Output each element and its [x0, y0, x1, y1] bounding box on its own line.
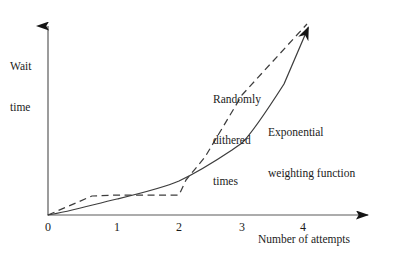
y-axis-title: Wait time — [10, 33, 31, 142]
annotation-exponential-weighting-function: Exponential weighting function — [268, 99, 355, 208]
annotation-randomly-dithered-times: Randomly dithered times — [213, 66, 261, 215]
y-axis-title-line-1: Wait — [10, 60, 31, 74]
x-tick-label-1: 1 — [107, 220, 127, 234]
annotation-dithered-line-2: dithered — [213, 134, 261, 148]
x-tick-label-0: 0 — [38, 220, 58, 234]
annotation-exponential-line-1: Exponential — [268, 126, 355, 140]
x-tick-label-4: 4 — [293, 220, 313, 234]
annotation-dithered-line-3: times — [213, 175, 261, 189]
x-axis-title: Number of attempts — [258, 233, 350, 247]
y-axis-title-line-2: time — [10, 101, 31, 115]
x-tick-label-2: 2 — [169, 220, 189, 234]
annotation-exponential-line-2: weighting function — [268, 167, 355, 181]
wait-time-vs-attempts-chart: Wait time Number of attempts 0 1 2 3 4 R… — [0, 0, 399, 261]
x-tick-label-3: 3 — [232, 220, 252, 234]
annotation-dithered-line-1: Randomly — [213, 93, 261, 107]
